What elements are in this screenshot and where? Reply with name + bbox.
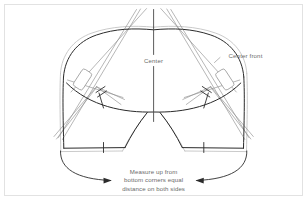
notch-left-cross [99,93,104,108]
center-label: Center [144,57,163,64]
notch-right-cross [204,93,209,108]
arrow-head-left [104,178,112,184]
measure-note-line-1: Measure up from [130,168,178,175]
center-front-leader-line [215,58,221,63]
center-front-label: Center front [229,52,263,59]
measure-note-line-3: distance on both sides [122,185,185,192]
arrow-head-right [196,178,204,184]
curved-arrow-left [60,151,110,181]
pattern-diagram-figure: Center Center front Measure up from bott… [0,0,308,201]
pattern-drawing-canvas: Center Center front Measure up from bott… [0,0,308,201]
measure-note-line-2: bottom corners equal [124,176,183,183]
curved-arrow-right [197,151,247,181]
